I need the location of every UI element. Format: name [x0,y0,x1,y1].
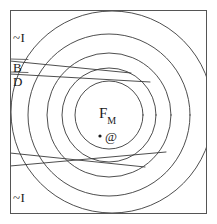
diagram-figure: ~I B D FM @ ~I [0,0,217,224]
label-b: B [13,61,22,74]
label-d: D [13,75,22,88]
label-at-symbol: @ [105,130,117,143]
label-f-subscript: M [107,115,116,126]
label-not-i-bottom: ~I [13,191,25,204]
label-f-m: FM [99,106,116,124]
label-not-i-top: ~I [13,31,25,44]
point-dot [98,134,101,137]
